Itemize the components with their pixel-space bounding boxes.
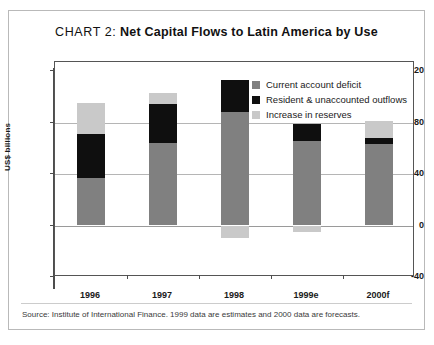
bar-segment-1997-s1 xyxy=(149,104,177,143)
legend-swatch-increase-in-reserves xyxy=(252,111,260,119)
bar-segment-1999e-s1 xyxy=(293,124,321,141)
source-note: Source: Institute of International Finan… xyxy=(22,310,360,319)
bar-segment-1999e-s2 xyxy=(293,226,321,232)
bar-segment-1998-s2 xyxy=(221,226,249,239)
chart-card: CHART 2: Net Capital Flows to Latin Amer… xyxy=(8,10,425,330)
bar-group-1997[interactable] xyxy=(149,71,177,275)
legend-label: Increase in reserves xyxy=(266,109,352,120)
y-tick-mark--40 xyxy=(50,276,54,277)
bar-segment-1996-s0 xyxy=(77,178,105,226)
bar-segment-2000f-s1 xyxy=(365,138,393,144)
x-tick-label-1997: 1997 xyxy=(152,290,172,300)
x-tick-label-1998: 1998 xyxy=(224,290,244,300)
legend-item: Increase in reserves xyxy=(252,108,407,121)
legend-swatch-current-account-deficit xyxy=(252,81,260,89)
x-tick-mark-2 xyxy=(271,275,272,279)
bar-segment-1998-s0 xyxy=(221,112,249,225)
x-tick-mark-3 xyxy=(343,275,344,279)
bar-segment-2000f-s0 xyxy=(365,144,393,225)
x-tick-label-1996: 1996 xyxy=(80,290,100,300)
chart-headline: Net Capital Flows to Latin America by Us… xyxy=(120,25,378,39)
x-tick-label-1999e: 1999e xyxy=(293,290,318,300)
bar-segment-2000f-s2 xyxy=(365,121,393,138)
x-tick-mark-1 xyxy=(199,275,200,279)
legend: Current account deficit Resident & unacc… xyxy=(252,78,407,123)
x-tick-label-2000f: 2000f xyxy=(366,290,389,300)
bar-segment-1997-s2 xyxy=(149,93,177,105)
bar-segment-1996-s1 xyxy=(77,134,105,178)
chart-number-label: CHART 2: xyxy=(55,25,116,39)
x-tick-mark-0 xyxy=(127,275,128,279)
bar-segment-1999e-s0 xyxy=(293,141,321,226)
bar-group-1998[interactable] xyxy=(221,71,249,275)
legend-label: Resident & unaccounted outflows xyxy=(266,94,407,105)
legend-item: Current account deficit xyxy=(252,78,407,91)
bar-segment-1997-s0 xyxy=(149,143,177,225)
source-divider xyxy=(21,303,412,304)
y-axis-title: US$ billions xyxy=(3,123,12,171)
bar-segment-1996-s2 xyxy=(77,103,105,134)
bar-segment-1998-s1 xyxy=(221,80,249,112)
page-title: CHART 2: Net Capital Flows to Latin Amer… xyxy=(9,25,424,39)
bar-group-1996[interactable] xyxy=(77,71,105,275)
legend-item: Resident & unaccounted outflows xyxy=(252,93,407,106)
legend-label: Current account deficit xyxy=(266,79,361,90)
legend-swatch-resident-unaccounted-outflows xyxy=(252,96,260,104)
